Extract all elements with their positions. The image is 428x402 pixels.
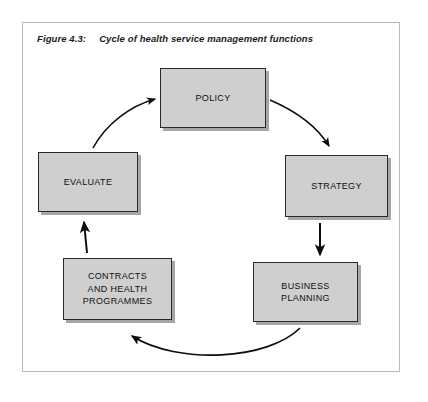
node-contracts-and-health-programmes-label: CONTRACTS AND HEALTH PROGRAMMES <box>83 270 153 308</box>
node-strategy[interactable]: STRATEGY <box>285 155 388 217</box>
node-policy-label: POLICY <box>195 92 230 105</box>
figure-caption: Figure 4.3:Cycle of health service manag… <box>37 33 313 44</box>
node-strategy-label: STRATEGY <box>311 180 362 193</box>
node-business-planning-label: BUSINESS PLANNING <box>281 280 330 305</box>
figure-title: Cycle of health service management funct… <box>99 33 313 44</box>
figure-root: Figure 4.3:Cycle of health service manag… <box>0 0 428 402</box>
node-contracts-and-health-programmes[interactable]: CONTRACTS AND HEALTH PROGRAMMES <box>63 258 172 320</box>
node-business-planning[interactable]: BUSINESS PLANNING <box>253 262 358 322</box>
node-evaluate-label: EVALUATE <box>64 176 112 189</box>
node-policy[interactable]: POLICY <box>160 68 266 128</box>
node-evaluate[interactable]: EVALUATE <box>38 152 138 212</box>
figure-label: Figure 4.3: <box>37 33 86 44</box>
